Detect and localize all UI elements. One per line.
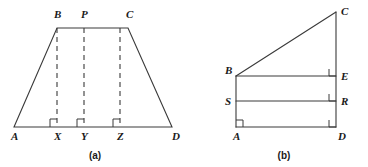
right-angle-at-E — [329, 69, 336, 76]
vertex-label-Z: Z — [116, 130, 124, 142]
trapezoid-outline-a — [14, 28, 172, 127]
right-angle-at-Z — [113, 119, 120, 127]
solid-edges-b — [236, 12, 336, 127]
vertex-label-A: A — [232, 130, 240, 142]
vertex-label-R: R — [340, 95, 348, 107]
diagram-a: A B C D P X Y Z (a) — [10, 8, 180, 161]
vertex-label-X: X — [53, 130, 62, 142]
right-angle-marks-a — [50, 119, 120, 127]
caption-b: (b) — [278, 150, 291, 161]
vertex-label-C: C — [341, 5, 349, 17]
vertex-label-B: B — [224, 64, 232, 76]
vertex-label-B: B — [53, 8, 61, 20]
diagram-b: A B C D E R S (b) — [224, 5, 349, 161]
right-angle-at-D — [329, 120, 336, 127]
geometry-figure: A B C D P X Y Z (a) — [0, 0, 368, 167]
figure-container: A B C D P X Y Z (a) — [0, 0, 368, 167]
dashed-altitudes-a — [57, 28, 120, 127]
caption-a: (a) — [89, 150, 101, 161]
right-angle-at-X — [50, 119, 57, 127]
vertex-label-P: P — [81, 8, 88, 20]
vertex-label-Y: Y — [81, 130, 89, 142]
right-angle-at-R — [329, 94, 336, 101]
vertex-label-D: D — [337, 130, 346, 142]
vertex-label-A: A — [10, 130, 18, 142]
right-angle-marks-b — [236, 69, 336, 127]
segment-B-C — [236, 12, 336, 76]
right-angle-at-Y — [77, 119, 84, 127]
vertex-label-E: E — [340, 70, 348, 82]
vertex-label-C: C — [126, 8, 134, 20]
right-angle-at-A — [236, 120, 243, 127]
vertex-label-D: D — [171, 130, 180, 142]
vertex-label-S: S — [225, 95, 231, 107]
